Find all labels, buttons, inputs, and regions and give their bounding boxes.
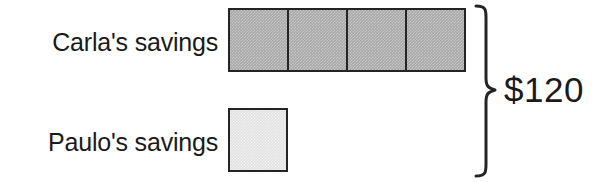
tape-diagram: Carla's savings Paulo's savings $120	[0, 0, 603, 182]
bar-segment	[289, 10, 348, 70]
bar-carla	[228, 8, 466, 72]
row-label-paulo: Paulo's savings	[0, 130, 218, 155]
right-curly-brace-icon	[470, 0, 502, 182]
bar-paulo	[228, 108, 288, 172]
bar-segment	[407, 10, 464, 70]
total-amount-label: $120	[504, 72, 584, 107]
total-brace	[470, 0, 502, 182]
bar-segment	[230, 10, 289, 70]
row-label-carla: Carla's savings	[0, 30, 218, 55]
bar-segment	[230, 110, 286, 170]
bar-segment	[348, 10, 407, 70]
